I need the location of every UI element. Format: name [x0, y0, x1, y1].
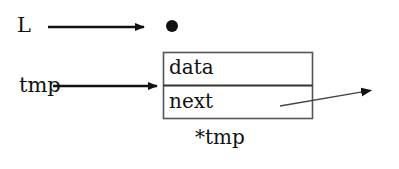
pointer-diagram-canvas: L tmp data next *tmp — [0, 0, 399, 169]
node-cell-label-next: next — [169, 91, 213, 111]
next-pointer-arrow — [280, 90, 371, 106]
head-node-dot — [166, 20, 178, 32]
pointer-label-L: L — [17, 15, 31, 36]
node-cell-label-data: data — [169, 57, 214, 77]
node-caption-star-tmp: *tmp — [195, 127, 245, 147]
pointer-label-tmp: tmp — [19, 75, 61, 96]
